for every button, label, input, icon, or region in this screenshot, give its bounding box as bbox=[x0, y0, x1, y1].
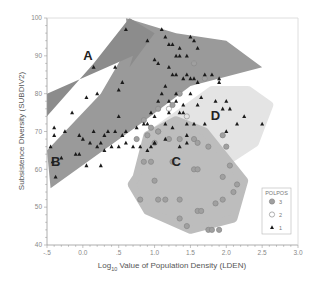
data-point-series-3 bbox=[148, 159, 153, 164]
data-point-series-3 bbox=[177, 197, 182, 202]
y-tick-label: 100 bbox=[31, 14, 42, 21]
y-tick-label: 70 bbox=[35, 128, 43, 135]
region-label-a: A bbox=[83, 48, 93, 63]
legend: POLPOS 321 bbox=[262, 188, 291, 234]
data-point-series-3 bbox=[209, 227, 214, 232]
data-point-series-3 bbox=[152, 178, 157, 183]
data-point-series-3 bbox=[220, 174, 225, 179]
data-point-series-3 bbox=[202, 76, 207, 81]
data-point-series-1 bbox=[95, 91, 99, 95]
data-point-series-3 bbox=[234, 182, 239, 187]
region-label-d: D bbox=[211, 108, 220, 123]
data-point-series-3 bbox=[145, 133, 150, 138]
legend-label-1: 1 bbox=[279, 225, 282, 231]
data-point-series-1 bbox=[174, 99, 178, 103]
x-tick-label: 2.5 bbox=[258, 249, 267, 256]
data-point-series-1 bbox=[131, 144, 135, 148]
x-tick-label: 2.0 bbox=[222, 249, 231, 256]
scatter-chart: -.50.0.51.01.52.02.53.0405060708090100 A… bbox=[0, 0, 318, 283]
data-point-series-1 bbox=[99, 163, 103, 167]
data-point-series-3 bbox=[195, 140, 200, 145]
data-point-series-3 bbox=[231, 189, 236, 194]
x-tick-label: 3.0 bbox=[293, 249, 302, 256]
y-tick-label: 80 bbox=[35, 90, 43, 97]
data-point-series-3 bbox=[195, 167, 200, 172]
y-tick-label: 60 bbox=[35, 166, 43, 173]
data-point-series-3 bbox=[177, 91, 182, 96]
data-point-series-3 bbox=[156, 106, 161, 111]
region-label-c: C bbox=[171, 154, 181, 169]
data-point-series-3 bbox=[206, 144, 211, 149]
data-point-series-3 bbox=[138, 197, 143, 202]
data-point-series-3 bbox=[224, 144, 229, 149]
data-point-series-1 bbox=[217, 80, 221, 84]
legend-title: POLPOS bbox=[265, 190, 288, 196]
data-point-series-3 bbox=[141, 159, 146, 164]
data-point-series-1 bbox=[52, 126, 56, 130]
y-tick-label: 90 bbox=[35, 52, 43, 59]
x-axis-title: Log10 Value of Population Density (LDEN) bbox=[98, 261, 247, 272]
y-tick-label: 40 bbox=[35, 241, 43, 248]
data-point-series-3 bbox=[217, 227, 222, 232]
data-point-series-1 bbox=[52, 133, 56, 137]
y-tick-label: 50 bbox=[35, 203, 43, 210]
data-point-series-1 bbox=[188, 91, 192, 95]
data-point-series-3 bbox=[177, 216, 182, 221]
data-point-series-1 bbox=[124, 141, 128, 145]
legend-label-2: 2 bbox=[279, 212, 282, 218]
x-tick-label: .5 bbox=[116, 249, 122, 256]
data-point-series-3 bbox=[184, 223, 189, 228]
x-tick-label: 0.0 bbox=[78, 249, 87, 256]
legend-marker-3 bbox=[269, 199, 274, 204]
data-point-series-3 bbox=[213, 201, 218, 206]
x-tick-label: -.5 bbox=[43, 249, 51, 256]
data-point-series-1 bbox=[117, 144, 121, 148]
data-point-series-3 bbox=[199, 208, 204, 213]
data-point-series-3 bbox=[156, 197, 161, 202]
data-point-series-1 bbox=[181, 103, 185, 107]
x-tick-label: 1.0 bbox=[150, 249, 159, 256]
data-point-series-1 bbox=[84, 95, 88, 99]
data-point-series-3 bbox=[227, 163, 232, 168]
data-point-series-3 bbox=[220, 133, 225, 138]
data-point-series-3 bbox=[156, 129, 161, 134]
x-tick-label: 1.5 bbox=[186, 249, 195, 256]
data-point-series-3 bbox=[177, 136, 182, 141]
data-point-series-1 bbox=[145, 122, 149, 126]
legend-label-3: 3 bbox=[279, 199, 282, 205]
data-point-series-3 bbox=[134, 136, 139, 141]
data-point-series-1 bbox=[84, 163, 88, 167]
data-point-series-3 bbox=[166, 136, 171, 141]
data-point-series-3 bbox=[220, 197, 225, 202]
y-axis-title: Subsistence Diversity (SUBDIV2) bbox=[17, 72, 26, 191]
data-point-series-1 bbox=[70, 110, 74, 114]
data-point-series-1 bbox=[153, 114, 157, 118]
data-point-series-3 bbox=[148, 125, 153, 130]
data-point-series-3 bbox=[163, 197, 168, 202]
region-label-b: B bbox=[51, 154, 60, 169]
